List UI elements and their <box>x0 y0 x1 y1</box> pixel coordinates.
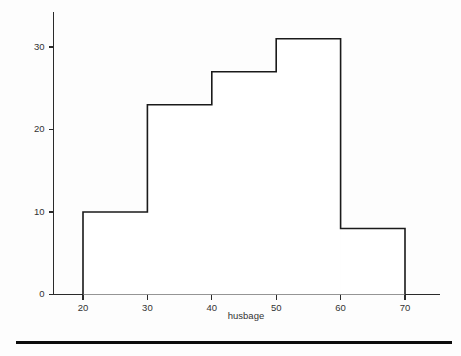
bar-50-60 <box>276 39 340 295</box>
histogram-screenshot: 0102030 203040506070 husbage <box>0 0 461 356</box>
histogram-chart: 0102030 203040506070 husbage <box>0 0 461 356</box>
x-axis-title: husbage <box>228 310 264 321</box>
y-tick-label-10: 10 <box>34 206 45 217</box>
x-tick-label-60: 60 <box>335 302 346 313</box>
y-tick-label-0: 0 <box>39 288 44 299</box>
y-tick-label-30: 30 <box>34 41 45 52</box>
chart-plot-area: 0102030 203040506070 husbage <box>0 0 461 356</box>
bar-60-70 <box>341 229 405 295</box>
x-tick-label-70: 70 <box>400 302 411 313</box>
x-tick-label-30: 30 <box>142 302 153 313</box>
y-tick-label-20: 20 <box>34 123 45 134</box>
x-tick-label-20: 20 <box>78 302 89 313</box>
bar-30-40 <box>147 105 211 295</box>
bar-40-50 <box>212 72 276 295</box>
x-tick-label-40: 40 <box>207 302 218 313</box>
bar-20-30 <box>83 212 147 295</box>
x-tick-label-50: 50 <box>271 302 282 313</box>
